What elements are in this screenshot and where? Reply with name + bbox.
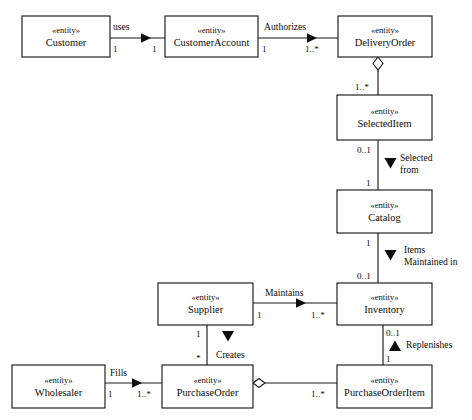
multiplicity-maintains-target: 1..*: [311, 310, 325, 320]
multiplicity-selectedfrom-target: 1: [366, 178, 371, 188]
navigation-arrow-icon: [385, 158, 397, 169]
multiplicity-customer-uses-source: 1: [113, 44, 118, 54]
multiplicity-replenishes-target: 1: [386, 354, 391, 364]
navigation-arrow-icon: [296, 298, 306, 308]
diagram-canvas: «entity» Customer «entity» CustomerAccou…: [0, 0, 472, 420]
association-catalog-itemsmaintainedin-inventory: [378, 233, 397, 283]
entity-purchaseorder[interactable]: «entity» PurchaseOrder: [162, 365, 253, 408]
entity-stereotype-label: «entity»: [370, 292, 398, 302]
entity-stereotype-label: «entity»: [191, 292, 219, 302]
association-purchaseorder-aggregates-purchaseorderitem: [253, 379, 337, 388]
entity-name-label: PurchaseOrder: [177, 387, 239, 398]
multiplicity-customer-uses-target: 1: [152, 44, 157, 54]
navigation-arrow-icon: [141, 33, 151, 43]
entity-name-label: Customer: [46, 37, 87, 48]
association-label-items-maintained-line1: Items: [404, 244, 426, 255]
association-deliveryorder-aggregates-selecteditem: [373, 57, 383, 95]
entity-name-label: SelectedItem: [357, 118, 411, 129]
association-label-selected-from-line2: from: [400, 164, 419, 175]
multiplicity-maintains-source: 1: [257, 310, 262, 320]
association-selecteditem-selectedfrom-catalog: [378, 140, 397, 190]
entity-deliveryorder[interactable]: «entity» DeliveryOrder: [338, 16, 432, 57]
multiplicity-authorizes-target: 1..*: [305, 44, 319, 54]
multiplicity-creates-source: 1: [196, 329, 201, 339]
navigation-arrow-icon: [222, 331, 234, 342]
entity-stereotype-label: «entity»: [370, 375, 398, 385]
multiplicity-itemsmaintained-source: 1: [366, 238, 371, 248]
navigation-arrow-icon: [132, 378, 142, 388]
entity-customer[interactable]: «entity» Customer: [22, 16, 110, 57]
entity-stereotype-label: «entity»: [370, 106, 398, 116]
entity-stereotype-label: «entity»: [197, 25, 225, 35]
multiplicity-authorizes-source: 1: [262, 44, 267, 54]
entity-stereotype-label: «entity»: [52, 25, 80, 35]
entity-name-label: PurchaseOrderItem: [344, 387, 425, 398]
association-label-creates: Creates: [216, 349, 245, 360]
multiplicity-selectedfrom-source: 0..1: [357, 145, 371, 155]
entity-stereotype-label: «entity»: [371, 25, 399, 35]
navigation-arrow-icon: [307, 33, 317, 43]
association-label-items-maintained-line2: Maintained in: [404, 256, 458, 267]
entity-wholesaler[interactable]: «entity» Wholesaler: [12, 365, 105, 408]
multiplicity-deliveryorder-selecteditem: 1..*: [355, 82, 369, 92]
association-label-maintains: Maintains: [265, 287, 304, 298]
entity-name-label: DeliveryOrder: [355, 37, 416, 48]
entity-supplier[interactable]: «entity» Supplier: [158, 283, 253, 325]
entity-name-label: Catalog: [368, 212, 400, 223]
entity-selecteditem[interactable]: «entity» SelectedItem: [337, 95, 432, 140]
navigation-arrow-icon: [389, 341, 401, 352]
aggregation-diamond-icon: [373, 57, 383, 70]
association-label-uses: uses: [113, 21, 130, 32]
entity-name-label: CustomerAccount: [174, 37, 250, 48]
association-label-selected-from-line1: Selected: [400, 152, 433, 163]
entity-name-label: Supplier: [188, 304, 224, 315]
association-label-fills: Fills: [110, 367, 127, 378]
entity-stereotype-label: «entity»: [193, 375, 221, 385]
navigation-arrow-icon: [385, 250, 397, 261]
entity-inventory[interactable]: «entity» Inventory: [337, 283, 432, 325]
association-label-replenishes: Replenishes: [406, 339, 453, 350]
association-label-authorizes: Authorizes: [264, 21, 306, 32]
aggregation-diamond-icon: [253, 379, 265, 388]
uml-entity-diagram: «entity» Customer «entity» CustomerAccou…: [0, 0, 472, 420]
multiplicity-purchaseorder-item: 1..*: [311, 389, 325, 399]
multiplicity-fills-target: 1..*: [137, 389, 151, 399]
entity-purchaseorderitem[interactable]: «entity» PurchaseOrderItem: [337, 365, 432, 408]
entity-stereotype-label: «entity»: [370, 200, 398, 210]
association-customeraccount-authorizes-deliveryorder: [258, 33, 338, 43]
association-customer-uses-customeraccount: [110, 33, 165, 43]
multiplicity-itemsmaintained-target: 0..1: [357, 271, 371, 281]
entity-catalog[interactable]: «entity» Catalog: [337, 190, 432, 233]
entity-stereotype-label: «entity»: [44, 375, 72, 385]
association-supplier-maintains-inventory: [253, 298, 337, 308]
entity-customeraccount[interactable]: «entity» CustomerAccount: [165, 16, 258, 57]
multiplicity-fills-source: 1: [108, 389, 113, 399]
entity-name-label: Wholesaler: [35, 387, 83, 398]
association-wholesaler-fills-purchaseorder: [105, 378, 162, 388]
entity-name-label: Inventory: [364, 304, 405, 315]
multiplicity-creates-target: *: [196, 353, 201, 363]
multiplicity-replenishes-source: 0..1: [386, 328, 400, 338]
